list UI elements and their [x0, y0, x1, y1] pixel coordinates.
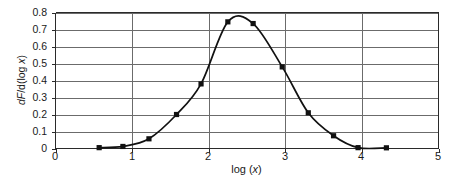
- data-point-marker: [355, 145, 360, 150]
- data-point-marker: [251, 21, 256, 26]
- data-point-marker: [97, 145, 102, 150]
- data-point-marker: [225, 19, 230, 24]
- data-curve-layer: [99, 16, 386, 149]
- data-point-marker: [306, 110, 311, 115]
- data-point-marker: [174, 112, 179, 117]
- axis-layer: [56, 13, 439, 149]
- data-curve: [99, 16, 386, 149]
- tick-marks-layer: [52, 14, 440, 153]
- data-point-marker: [198, 81, 203, 86]
- data-point-marker: [280, 64, 285, 69]
- data-point-marker: [146, 136, 151, 141]
- data-point-marker: [331, 133, 336, 138]
- grid-layer: [56, 13, 439, 149]
- data-point-marker: [120, 144, 125, 149]
- chart-figure: dF/d(log x) log (x) 0 0.1 0.2 0.3 0.4 0.…: [0, 0, 451, 191]
- data-markers-layer: [97, 19, 389, 150]
- plot-area: [0, 0, 451, 191]
- data-point-marker: [384, 145, 389, 150]
